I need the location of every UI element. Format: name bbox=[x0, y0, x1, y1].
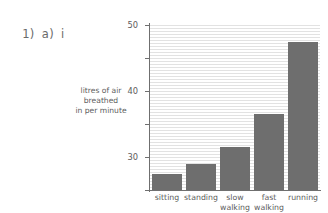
bar bbox=[152, 174, 182, 191]
y-tick-mark: 50 bbox=[145, 25, 150, 26]
bar-chart: 01020304050 sittingstandingslowwalkingfa… bbox=[150, 25, 320, 190]
question-part: a) bbox=[42, 27, 54, 41]
y-tick-label: 40 bbox=[127, 86, 138, 96]
y-tick-label: 30 bbox=[127, 152, 138, 162]
y-axis-label-line-2: breathed bbox=[60, 96, 142, 106]
y-tick-label: 50 bbox=[127, 20, 138, 30]
bar bbox=[288, 42, 318, 191]
question-subpart: i bbox=[61, 27, 65, 41]
question-number: 1) bbox=[22, 27, 35, 41]
bar bbox=[186, 164, 216, 190]
x-tick-label-line: running bbox=[280, 193, 326, 203]
y-axis-line bbox=[149, 23, 150, 192]
x-tick-label: running bbox=[280, 193, 326, 203]
y-tick-mark: 0 bbox=[145, 190, 150, 191]
y-tick-mark: 40 bbox=[145, 58, 150, 59]
x-axis-line bbox=[149, 190, 321, 191]
x-tick-label-line: walking bbox=[246, 203, 292, 213]
question-label: 1)a)i bbox=[14, 13, 65, 41]
y-tick-mark: 30 bbox=[145, 91, 150, 92]
y-tick-mark: 20 bbox=[145, 124, 150, 125]
y-axis-label-line-3: in per minute bbox=[60, 106, 142, 116]
y-tick-mark: 10 bbox=[145, 157, 150, 158]
bar bbox=[220, 147, 250, 190]
bar bbox=[254, 114, 284, 190]
